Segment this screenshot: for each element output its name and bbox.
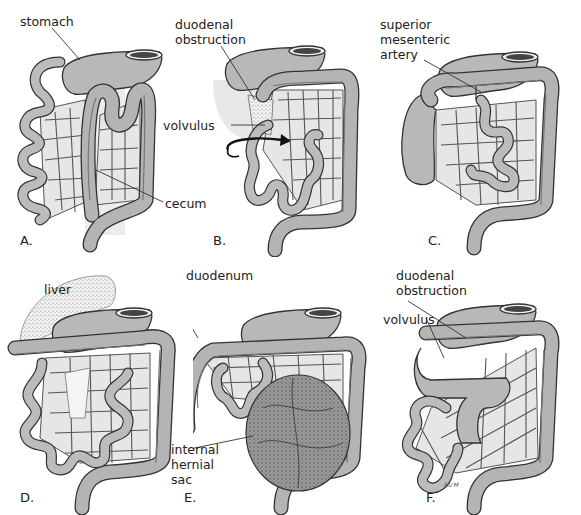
callout-superior-mesenteric-artery: superior mesenteric artery: [380, 17, 450, 62]
callout-duodenum: duodenum: [186, 268, 253, 283]
panel-label-a: A.: [20, 233, 33, 248]
artist-signature: Ru'M: [444, 477, 459, 492]
panel-b: duodenal obstruction volvulus B.: [193, 0, 386, 257]
panel-d-illustration: [0, 258, 193, 515]
callout-internal-hernial-sac: internal hernial sac: [171, 442, 219, 487]
panel-c: superior mesenteric artery C.: [386, 0, 579, 257]
panel-d: liver D.: [0, 258, 193, 515]
callout-duodenal-obstruction: duodenal obstruction: [175, 17, 246, 47]
callout-volvulus: volvulus: [163, 118, 215, 133]
panel-label-d: D.: [20, 490, 34, 505]
panel-label-f: F.: [426, 490, 436, 505]
panel-label-b: B.: [213, 233, 226, 248]
malrotation-figure: stomach cecum A. duod: [0, 0, 581, 515]
panel-f: duodenal obstruction volvulus Ru'M F.: [386, 258, 579, 515]
callout-stomach: stomach: [20, 14, 74, 29]
panel-label-c: C.: [428, 233, 441, 248]
panel-e-illustration: [193, 258, 386, 515]
callout-liver: liver: [44, 282, 71, 297]
panel-label-e: E.: [184, 490, 196, 505]
callout-duodenal-obstruction-f: duodenal obstruction: [396, 268, 467, 298]
panel-e: duodenum internal hernial sac E.: [193, 258, 386, 515]
callout-volvulus-f: volvulus: [383, 312, 435, 327]
